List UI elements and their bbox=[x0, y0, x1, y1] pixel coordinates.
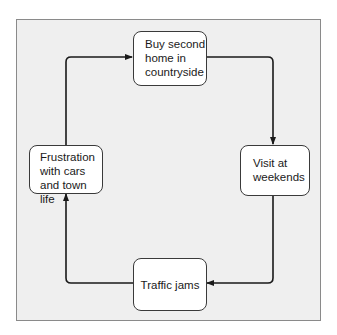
node-label-line: weekends bbox=[253, 170, 309, 184]
node-buy-second-home: Buy second home in countryside bbox=[133, 31, 207, 86]
node-label-line: with cars bbox=[40, 164, 102, 178]
node-label-line: Frustration bbox=[40, 150, 102, 164]
node-frustration: Frustration with cars and town life bbox=[29, 145, 103, 194]
node-label-line: home in bbox=[145, 51, 206, 65]
node-label-line: and town life bbox=[40, 178, 102, 206]
node-traffic-jams: Traffic jams bbox=[133, 258, 207, 311]
arrow-right-to-bottom bbox=[207, 195, 273, 283]
arrow-top-to-right bbox=[206, 57, 273, 144]
node-label-line: Buy second bbox=[145, 37, 206, 51]
node-visit-at-weekends: Visit at weekends bbox=[240, 145, 310, 196]
node-label-line: countryside bbox=[145, 65, 206, 79]
arrow-left-to-top bbox=[66, 57, 132, 145]
node-label-line: Traffic jams bbox=[141, 278, 200, 292]
arrow-bottom-to-left bbox=[66, 194, 133, 283]
node-label-line: Visit at bbox=[253, 156, 309, 170]
